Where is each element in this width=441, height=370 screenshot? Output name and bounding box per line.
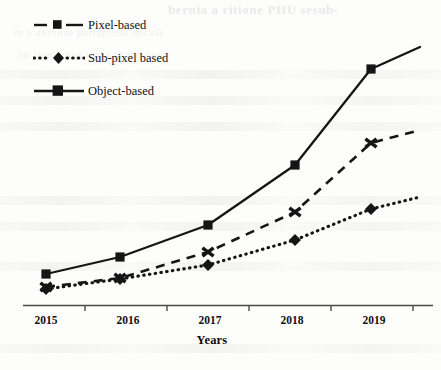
legend-key-sub-pixel-based <box>33 50 85 66</box>
x-axis <box>23 306 433 312</box>
x-tick-label-2015: 2015 <box>35 314 58 326</box>
legend-item-pixel-based[interactable]: Pixel-based <box>33 14 168 36</box>
legend-item-sub-pixel-based[interactable]: Sub-pixel based <box>33 47 168 69</box>
data-point-object-2015 <box>41 269 50 278</box>
legend-label-object-based: Object-based <box>88 84 154 99</box>
x-axis-title: Years <box>197 333 228 348</box>
chart-legend: Pixel-based Sub-pixel based Object-based <box>33 14 168 113</box>
data-point-subpixel-2018 <box>289 234 301 246</box>
legend-key-object-based <box>33 83 85 99</box>
data-point-object-2018 <box>290 160 299 169</box>
data-point-object-2017 <box>203 220 212 229</box>
data-point-subpixel-2019 <box>365 203 377 215</box>
x-tick-label-2018: 2018 <box>281 314 304 326</box>
x-tick-label-2016: 2016 <box>117 314 140 326</box>
series-line-sub-pixel-based <box>46 197 420 289</box>
chart-figure: bernia a ritione PHU sesub- m v aeronse … <box>0 0 441 370</box>
data-point-object-2019 <box>366 64 375 73</box>
data-point-object-2016 <box>115 252 124 261</box>
x-tick-label-2017: 2017 <box>199 314 222 326</box>
data-point-subpixel-2017 <box>202 259 214 271</box>
legend-key-pixel-based <box>33 17 85 33</box>
data-point-pixel-2018 <box>289 208 300 216</box>
legend-item-object-based[interactable]: Object-based <box>33 80 168 102</box>
legend-label-sub-pixel-based: Sub-pixel based <box>88 51 168 66</box>
x-tick-label-2019: 2019 <box>363 314 386 326</box>
legend-label-pixel-based: Pixel-based <box>88 18 146 33</box>
